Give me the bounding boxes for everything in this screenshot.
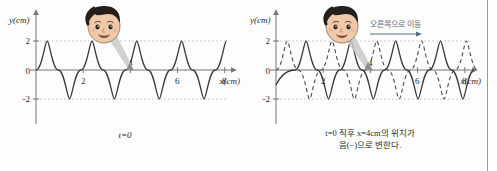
ytick-label-0: 0 [266, 66, 271, 76]
annotation-move-right: 오른쪽으로 이동 [370, 19, 421, 29]
caption-left: t=0 [0, 130, 250, 140]
chart-left: y(cm) x(cm) 2 0 -2 2 4 6 8 [0, 0, 250, 130]
ytick-label-minus2: -2 [263, 94, 271, 104]
x-axis-arrow [231, 67, 237, 73]
y-axis-arrow [33, 9, 39, 15]
panel-left: y(cm) x(cm) 2 0 -2 2 4 6 8 [0, 0, 250, 171]
y-axis-label: y(cm) [250, 15, 270, 25]
ytick-label-2: 2 [26, 36, 31, 46]
xtick-label-2: 2 [81, 76, 86, 86]
caption-right-line2: 음(−)으로 변한다. [250, 139, 490, 151]
arrow-right-icon [416, 32, 422, 37]
xtick-label-2: 2 [321, 76, 326, 86]
panel-right: y(cm) x(cm) 2 0 -2 2 4 6 8 오른쪽으로 이동 [250, 0, 490, 171]
boy-head-icon [325, 6, 358, 43]
ytick-label-0: 0 [26, 66, 31, 76]
chart-right: y(cm) x(cm) 2 0 -2 2 4 6 8 오른쪽으로 이동 [250, 0, 490, 130]
xtick-label-8: 8 [462, 76, 467, 86]
xtick-label-6: 6 [415, 76, 420, 86]
y-axis-label: y(cm) [8, 15, 29, 25]
y-axis-arrow [273, 9, 279, 15]
figure-container: y(cm) x(cm) 2 0 -2 2 4 6 8 [0, 0, 497, 171]
ytick-label-2: 2 [266, 36, 271, 46]
caption-right-line1: t=0 직후 x=4cm의 위치가 [250, 127, 490, 139]
ytick-label-minus2: -2 [23, 94, 31, 104]
xtick-label-8: 8 [222, 76, 227, 86]
boy-head-icon [87, 6, 120, 43]
xtick-label-6: 6 [175, 76, 180, 86]
caption-right: t=0 직후 x=4cm의 위치가 음(−)으로 변한다. [250, 127, 490, 151]
